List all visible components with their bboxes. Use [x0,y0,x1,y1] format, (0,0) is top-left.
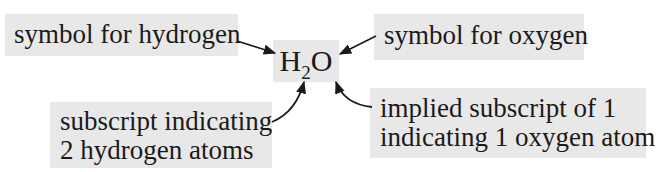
arrows-layer [0,0,656,172]
arrow-icon [336,82,372,107]
arrow-icon [272,82,304,122]
arrow-icon [237,41,275,53]
arrow-icon [340,36,376,54]
